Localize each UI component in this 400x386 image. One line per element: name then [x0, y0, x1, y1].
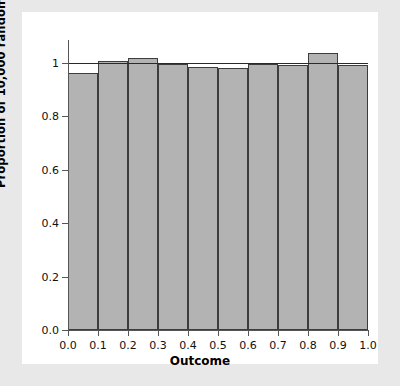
x-tick-label: 0.3	[149, 339, 167, 352]
x-tick-label: 0.1	[89, 339, 107, 352]
y-tick-label: 0.4	[42, 217, 60, 230]
y-tick-label: 0.2	[42, 270, 60, 283]
y-tick-mark	[62, 277, 68, 278]
x-tick-mark	[308, 330, 309, 336]
y-tick-mark	[62, 170, 68, 171]
x-tick-mark	[128, 330, 129, 336]
x-tick-mark	[188, 330, 189, 336]
x-tick-mark	[368, 330, 369, 336]
x-tick-mark	[278, 330, 279, 336]
bar	[278, 65, 308, 330]
x-tick-label: 0.8	[299, 339, 317, 352]
x-tick-label: 0.9	[329, 339, 347, 352]
y-tick-label: 0.0	[42, 324, 60, 337]
x-tick-label: 0.5	[209, 339, 227, 352]
x-tick-label: 1.0	[359, 339, 377, 352]
x-tick-mark	[338, 330, 339, 336]
bar	[338, 65, 368, 330]
y-tick-mark	[62, 63, 68, 64]
y-tick-mark	[62, 116, 68, 117]
y-tick-label: 1	[52, 57, 59, 70]
x-tick-label: 0.0	[59, 339, 77, 352]
bar	[188, 67, 218, 330]
plot-area	[68, 63, 368, 330]
x-tick-label: 0.6	[239, 339, 257, 352]
bar	[128, 58, 158, 330]
x-tick-label: 0.7	[269, 339, 287, 352]
chart-figure: 0.00.20.40.60.81 0.00.10.20.30.40.50.60.…	[0, 0, 400, 386]
reference-line	[68, 63, 368, 64]
y-axis-label: Proportion of 10,000 random numbers	[0, 0, 8, 188]
y-tick-label: 0.6	[42, 163, 60, 176]
x-tick-mark	[68, 330, 69, 336]
bar	[68, 73, 98, 330]
x-tick-mark	[248, 330, 249, 336]
x-tick-mark	[98, 330, 99, 336]
x-tick-mark	[218, 330, 219, 336]
bar	[98, 61, 128, 330]
bar	[218, 68, 248, 330]
x-tick-mark	[158, 330, 159, 336]
bar	[248, 64, 278, 330]
x-tick-label: 0.2	[119, 339, 137, 352]
bar	[158, 64, 188, 330]
y-tick-mark	[62, 223, 68, 224]
x-tick-label: 0.4	[179, 339, 197, 352]
y-tick-label: 0.8	[42, 110, 60, 123]
bar	[308, 53, 338, 330]
x-axis-label: Outcome	[0, 354, 400, 368]
y-axis	[68, 40, 69, 330]
